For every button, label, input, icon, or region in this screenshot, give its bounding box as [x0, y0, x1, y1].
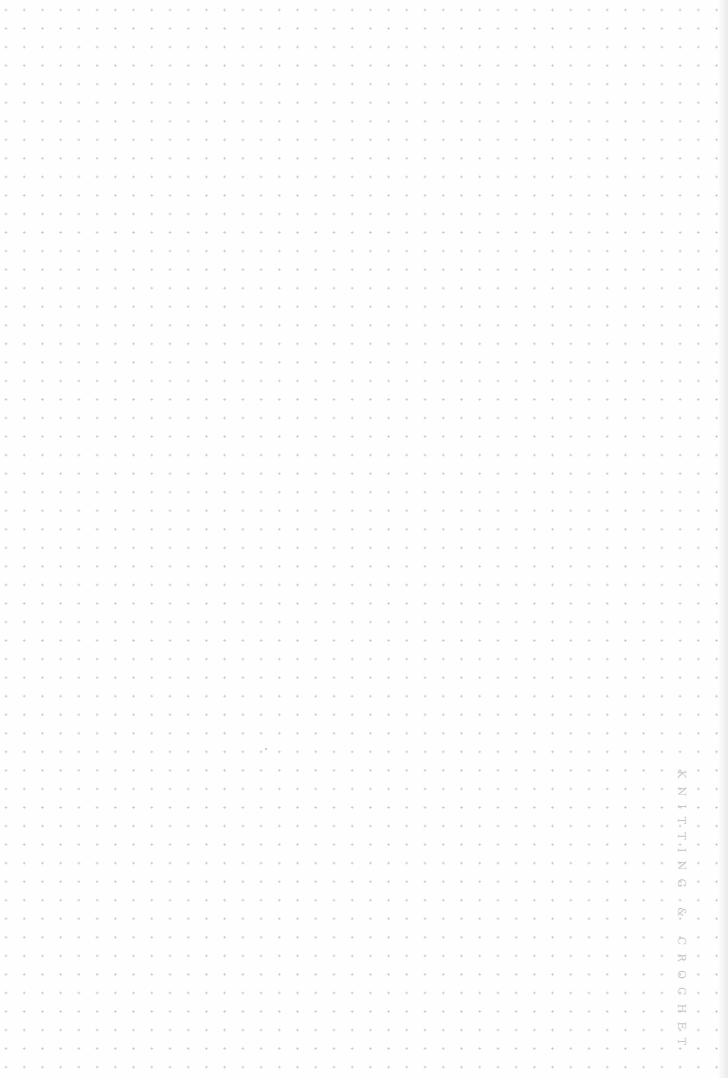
paper-speck [265, 748, 267, 750]
dot-grid-page: KNITTING & CROCHET [0, 0, 728, 1078]
vertical-title-label: KNITTING & CROCHET [673, 770, 689, 1015]
page-edge-shadow [718, 0, 728, 1078]
